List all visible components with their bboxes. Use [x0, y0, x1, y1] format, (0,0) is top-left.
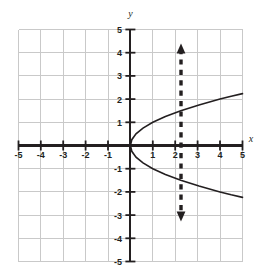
coordinate-plane-svg: -5 -4 -3 -2 -1 1 2 3 4 5 5 4 3 2 1 -1 -2… — [0, 0, 261, 272]
y-tick-label: 2 — [117, 95, 122, 105]
x-tick-label: 5 — [240, 150, 245, 160]
vertical-line-test — [177, 44, 186, 222]
y-tick-label: -3 — [114, 211, 122, 221]
parabola-lower-branch — [130, 146, 242, 198]
y-tick-label: 4 — [117, 48, 122, 58]
arrowhead-down-icon — [177, 212, 186, 222]
y-tick-label: -2 — [114, 187, 122, 197]
y-tick-label: -4 — [114, 234, 122, 244]
y-tick-label: -5 — [114, 257, 122, 267]
x-tick-label: 1 — [150, 150, 155, 160]
y-tick-label: 1 — [117, 118, 122, 128]
y-axis-label: y — [127, 8, 133, 19]
parabola-upper-branch — [130, 94, 242, 146]
x-tick-label: -2 — [82, 150, 90, 160]
x-tick-label: 4 — [217, 150, 222, 160]
x-tick-label: -1 — [104, 150, 112, 160]
arrowhead-up-icon — [177, 44, 186, 54]
x-tick-label: 3 — [195, 150, 200, 160]
graph-figure: -5 -4 -3 -2 -1 1 2 3 4 5 5 4 3 2 1 -1 -2… — [0, 0, 261, 272]
x-tick-label: -5 — [14, 150, 22, 160]
x-tick-label: -3 — [59, 150, 67, 160]
y-tick-label: 3 — [117, 71, 122, 81]
y-tick-label: -1 — [114, 164, 122, 174]
x-tick-label: -4 — [37, 150, 45, 160]
x-tick-label: 2 — [173, 150, 178, 160]
x-axis-label: x — [248, 133, 254, 144]
y-tick-label: 5 — [117, 25, 122, 35]
